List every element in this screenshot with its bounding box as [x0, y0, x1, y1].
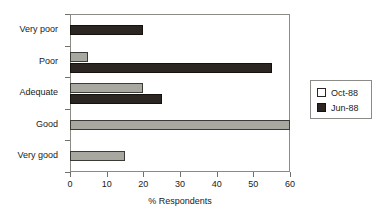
bar-group-very-good [70, 140, 290, 172]
x-axis-tick [70, 172, 71, 177]
bar-poor-jun-88 [70, 63, 272, 73]
bars-layer [70, 14, 290, 172]
bar-group-poor [70, 46, 290, 78]
x-axis-tick [290, 172, 291, 177]
y-axis-label-adequate: Adequate [19, 77, 58, 109]
bar-group-adequate [70, 77, 290, 109]
y-axis-labels: Very poor Poor Adequate Good Very good [0, 14, 66, 172]
legend-label-jun-88: Jun-88 [331, 103, 359, 113]
x-axis-tick [253, 172, 254, 177]
filled-square-swatch-icon [317, 103, 326, 112]
x-axis-tick-label-0: 0 [67, 179, 72, 189]
bar-very-poor-jun-88 [70, 25, 143, 35]
x-axis-title: % Respondents [70, 196, 290, 206]
bar-group-good [70, 109, 290, 141]
y-axis-label-good: Good [36, 109, 58, 141]
bar-adequate-jun-88 [70, 94, 162, 104]
x-axis-tick-label-50: 50 [248, 179, 258, 189]
bar-group-very-poor [70, 14, 290, 46]
open-square-swatch-icon [317, 88, 326, 97]
x-axis-tick-label-10: 10 [102, 179, 112, 189]
x-axis-tick [143, 172, 144, 177]
x-axis-tick-label-30: 30 [175, 179, 185, 189]
bar-very-good-oct-88 [70, 151, 125, 161]
x-axis-tick [107, 172, 108, 177]
y-axis-label-poor: Poor [39, 46, 58, 78]
bar-adequate-oct-88 [70, 83, 143, 93]
x-axis-tick-label-60: 60 [285, 179, 295, 189]
bar-good-oct-88 [70, 120, 290, 130]
chart-legend: Oct-88 Jun-88 [310, 80, 372, 119]
bar-chart: Very poor Poor Adequate Good Very good [0, 0, 385, 218]
y-axis-label-very-poor: Very poor [19, 14, 58, 46]
x-axis-tick [217, 172, 218, 177]
legend-item-jun-88[interactable]: Jun-88 [317, 100, 371, 115]
bar-poor-oct-88 [70, 52, 88, 62]
x-axis-tick-label-40: 40 [212, 179, 222, 189]
x-axis-tick-label-20: 20 [138, 179, 148, 189]
legend-item-oct-88[interactable]: Oct-88 [317, 85, 371, 100]
y-axis-label-very-good: Very good [17, 140, 58, 172]
x-axis-tick [180, 172, 181, 177]
legend-label-oct-88: Oct-88 [331, 88, 358, 98]
